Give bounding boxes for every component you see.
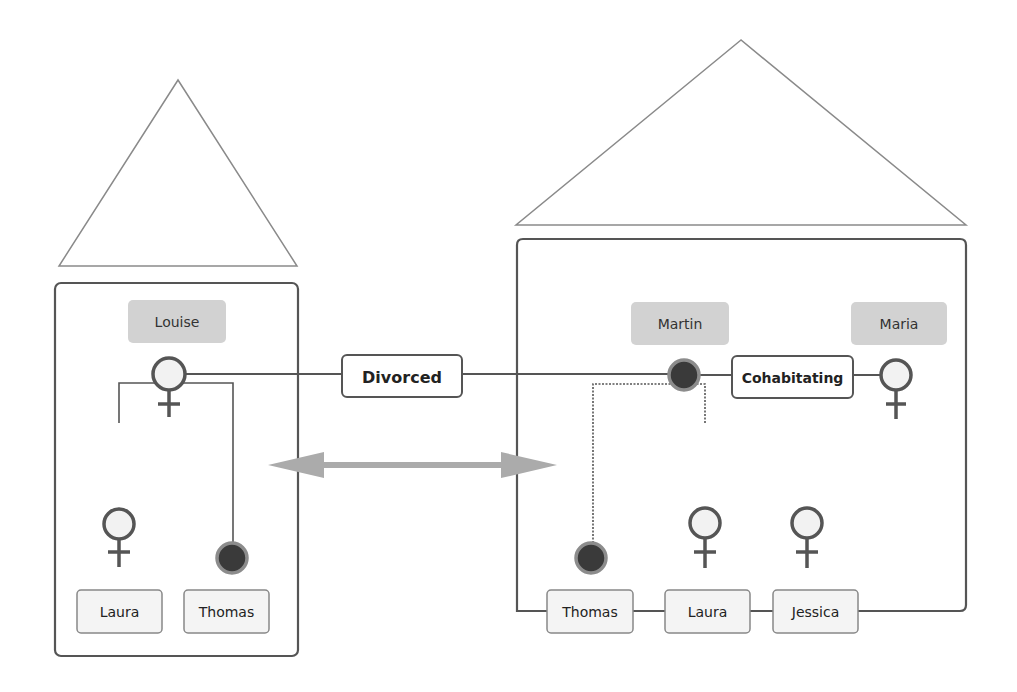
parent-martin: Martin [631,302,729,345]
female-symbol-icon [690,508,720,568]
laura-right-name: Laura [688,604,728,620]
divorced-text: Divorced [362,368,442,387]
cohabitating-text: Cohabitating [742,370,844,386]
parent-louise: Louise [128,300,226,343]
male-filled-circle-icon [217,543,247,573]
jessica-name: Jessica [791,604,840,620]
child-thomas-left: Thomas [184,590,269,633]
louise-children-bracket [119,383,233,543]
left-house-roof [59,80,297,266]
laura-left-name: Laura [100,604,140,620]
female-symbol-icon [153,358,185,417]
thomas-right-name: Thomas [561,604,618,620]
male-filled-circle-icon [669,360,699,390]
maria-name: Maria [880,316,919,332]
louise-name: Louise [155,314,200,330]
child-laura-left: Laura [77,590,162,633]
female-symbol-icon [881,360,911,419]
martin-children-bracket [593,384,705,543]
male-filled-circle-icon [576,543,606,573]
parent-maria: Maria [851,302,947,345]
family-households-diagram: Divorced Cohabitating Louise Martin Mari… [0,0,1017,692]
right-house-roof [516,40,966,225]
female-symbol-icon [792,508,822,568]
divorced-label: Divorced [342,355,462,397]
thomas-left-name: Thomas [198,604,255,620]
female-symbol-icon [104,509,134,567]
child-thomas-right: Thomas [547,590,633,633]
martin-name: Martin [658,316,703,332]
double-headed-arrow-icon [268,452,557,478]
cohabitating-label: Cohabitating [732,356,853,398]
child-laura-right: Laura [665,590,750,633]
child-jessica: Jessica [773,590,858,633]
